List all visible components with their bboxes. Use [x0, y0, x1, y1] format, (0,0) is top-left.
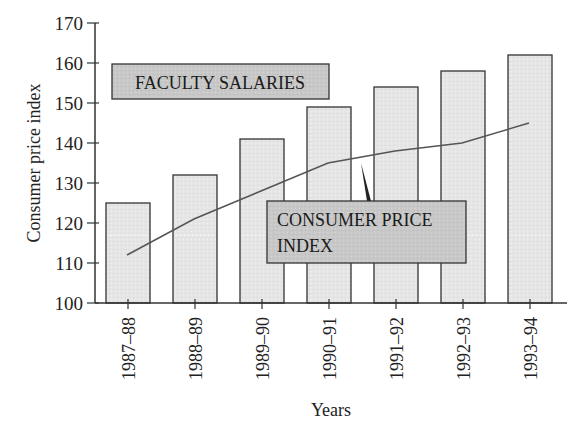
- x-tick-label: 1988–89: [186, 317, 206, 380]
- chart-canvas: 100110120130140150160170 1987–881988–891…: [0, 0, 580, 440]
- y-tick-label: 130: [55, 173, 84, 194]
- x-tick-label: 1991–92: [387, 317, 407, 380]
- x-tick-label: 1993–94: [521, 317, 541, 380]
- bar: [173, 175, 217, 303]
- x-axis: 1987–881988–891989–901990–911991–921992–…: [95, 299, 567, 380]
- bar: [441, 71, 485, 303]
- x-tick-label: 1990–91: [320, 317, 340, 380]
- cpi-callout-pointer: [361, 163, 371, 201]
- y-tick-label: 150: [55, 93, 84, 114]
- cpi-callout-line-1: CONSUMER PRICE: [277, 210, 433, 230]
- faculty-salaries-label: FACULTY SALARIES: [135, 73, 305, 93]
- y-tick-label: 120: [55, 213, 84, 234]
- y-tick-label: 100: [55, 293, 84, 314]
- bar: [508, 55, 552, 303]
- y-axis: 100110120130140150160170: [55, 13, 100, 314]
- x-tick-label: 1992–93: [454, 317, 474, 380]
- y-tick-label: 140: [55, 133, 84, 154]
- x-tick-label: 1987–88: [119, 317, 139, 380]
- bar: [374, 87, 418, 303]
- y-tick-label: 160: [55, 53, 84, 74]
- y-tick-label: 170: [55, 13, 84, 34]
- cpi-callout-line-2: INDEX: [277, 236, 333, 256]
- y-axis-title: Consumer price index: [24, 84, 44, 243]
- bar: [106, 203, 150, 303]
- y-tick-label: 110: [55, 253, 83, 274]
- x-axis-title: Years: [311, 400, 351, 420]
- x-tick-label: 1989–90: [253, 317, 273, 380]
